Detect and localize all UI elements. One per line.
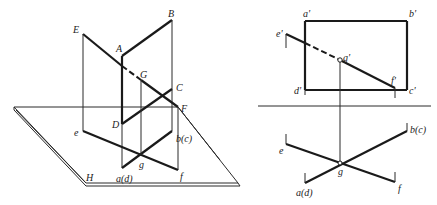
- pictorial-view: E A B G C D F e g f b(c) a(d) H: [14, 8, 240, 186]
- label-g-top: g: [338, 166, 343, 177]
- label-d-prime: d': [294, 85, 302, 96]
- line-ef: [83, 34, 220, 170]
- label-A: A: [115, 43, 123, 54]
- label-e: e: [74, 127, 79, 138]
- label-b-prime: b': [409, 8, 417, 19]
- label-e-top: e: [279, 145, 284, 156]
- label-bc: b(c): [176, 133, 193, 145]
- label-f: f: [180, 171, 184, 182]
- label-c-prime: c': [409, 85, 416, 96]
- label-C: C: [176, 82, 183, 93]
- label-f-prime: f': [391, 75, 397, 86]
- projection-diagram: E A B G C D F e g f b(c) a(d) H: [0, 0, 437, 205]
- label-G: G: [140, 69, 147, 80]
- label-F: F: [180, 103, 188, 114]
- label-bc-top: b(c): [410, 124, 427, 136]
- label-g: g: [139, 159, 144, 170]
- label-e-prime: e': [276, 28, 283, 39]
- g-point: [338, 161, 342, 165]
- top-view: [286, 123, 407, 183]
- label-g-prime: g': [343, 52, 351, 63]
- label-a-prime: a': [303, 8, 311, 19]
- plane-abcd: [122, 20, 172, 168]
- g-prime-point: [338, 58, 342, 62]
- orthographic-view: a' b' c' d' e' f' g' b(c) e g f a(d): [258, 8, 431, 199]
- label-B: B: [168, 8, 174, 19]
- edge-ab: [122, 20, 172, 56]
- label-ad-top: a(d): [296, 187, 313, 199]
- label-E: E: [72, 24, 79, 35]
- label-H: H: [85, 172, 94, 183]
- label-f-top: f: [398, 183, 402, 194]
- label-D: D: [111, 119, 120, 130]
- label-ad: a(d): [116, 173, 133, 185]
